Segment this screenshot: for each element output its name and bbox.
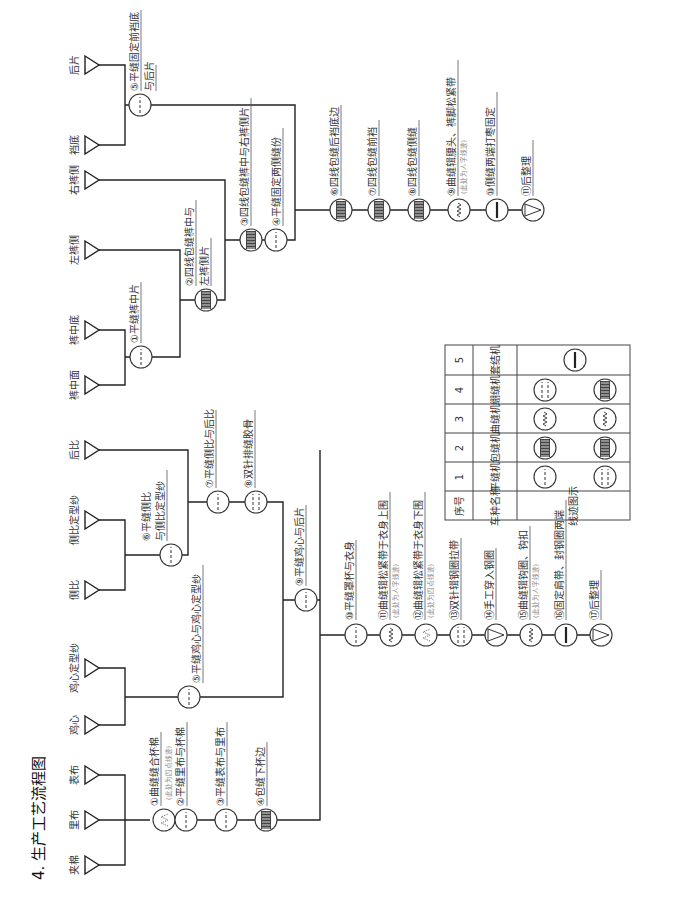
legend-row-5: 5 套结机 (454, 345, 586, 375)
hatched-circle-icon (195, 289, 217, 311)
svg-text:②四线包缝裤中与: ②四线包缝裤中与 (183, 207, 195, 286)
material-jiamian: 夹棉 (68, 855, 99, 875)
svg-text:⑦四线包缝前裆: ⑦四线包缝前裆 (366, 127, 378, 196)
double-dashed-circle-icon (534, 379, 556, 401)
bra-step-6: ⑥平缝侧比 与侧比定型纱 (140, 470, 182, 566)
pants-step-8: ⑧四线包缝侧缝 (406, 120, 430, 221)
triangle-icon (85, 136, 99, 154)
bra-step-13: ⑬双针辑钢圈拉带 (448, 538, 472, 646)
pants-step-3: ③四线包缝裤中与右裤侧片 (238, 98, 262, 251)
triangle-icon (85, 376, 99, 394)
bra-step-12: ⑫曲缝辑松紧带于衣身下围 (此处为四点线迹) (412, 492, 437, 646)
svg-text:⑭手工穿入钢圈: ⑭手工穿入钢圈 (483, 550, 495, 620)
material-houpian: 后片 (68, 55, 99, 75)
bra-materials: 夹棉 里布 表布 鸡心 鸡心定型纱 侧比 侧比定型纱 后比 (68, 440, 99, 875)
svg-text:线迹图示: 线迹图示 (567, 486, 579, 526)
svg-text:绷缝机: 绷缝机 (489, 375, 501, 405)
dashed-circle-icon (207, 491, 229, 513)
legend-row-3: 3 曲缝机 (454, 404, 616, 434)
legend-row-4: 4 绷缝机 (454, 375, 616, 405)
dashed-circle-icon (175, 809, 197, 831)
material-libu: 里布 (69, 810, 99, 830)
zigzag-circle-icon (534, 408, 556, 430)
double-dashed-circle-icon (245, 491, 267, 513)
svg-text:平缝机: 平缝机 (489, 462, 501, 492)
material-biaobu: 表布 (68, 765, 99, 785)
dashed-circle-icon (534, 466, 556, 488)
svg-text:⑩侧缝两端打枣固定: ⑩侧缝两端打枣固定 (484, 107, 496, 196)
svg-text:4: 4 (454, 387, 465, 393)
svg-text:1: 1 (454, 474, 465, 480)
svg-text:5: 5 (454, 357, 465, 363)
svg-text:右裤侧: 右裤侧 (68, 165, 80, 195)
svg-text:(此处为人字线迹): (此处为人字线迹) (459, 140, 468, 194)
svg-text:序号: 序号 (453, 496, 465, 516)
svg-text:与后片: 与后片 (143, 61, 155, 91)
pants-step-5: ⑤平缝固定前裆底 与后片 (128, 10, 156, 116)
svg-text:左裤侧: 左裤侧 (68, 235, 80, 265)
bra-step-15: ⑮曲缝辑钩圈、钩扣 (此处为人字线迹) (517, 526, 542, 646)
svg-text:2: 2 (454, 445, 465, 451)
svg-text:②平缝里布与杯棉: ②平缝里布与杯棉 (174, 727, 186, 806)
svg-text:(此处为人字线迹): (此处为人字线迹) (391, 564, 400, 618)
pants-step-9: ⑨曲缝辑腰头、裤脚松紧带 (此处为人字线迹) (445, 60, 470, 221)
bra-step-17: ⑰后整理 (588, 570, 612, 646)
triangle-circle-icon (522, 199, 544, 221)
triangle-icon (85, 766, 99, 784)
bra-step-2: ②平缝里布与杯棉 (174, 722, 197, 831)
pants-steps: ①平缝裤中片 ②四线包缝裤中与 左裤侧片 ③四线包缝裤中与右裤侧片 ④平缝固定两… (128, 10, 544, 368)
svg-text:后比: 后比 (69, 440, 80, 460)
bra-step-1: ①曲缝缝合杯棉 (此处为四点线迹) (148, 732, 175, 831)
svg-text:⑨曲缝辑腰头、裤脚松紧带: ⑨曲缝辑腰头、裤脚松紧带 (445, 77, 457, 196)
pants-step-6: ⑥四线包缝后裆底边 (328, 105, 352, 221)
svg-text:⑥平缝侧比: ⑥平缝侧比 (140, 492, 152, 541)
svg-text:③四线包缝裤中与右裤侧片: ③四线包缝裤中与右裤侧片 (238, 107, 250, 226)
hatched-circle-icon (240, 229, 262, 251)
svg-text:⑬双针辑钢圈拉带: ⑬双针辑钢圈拉带 (448, 540, 460, 620)
zigzag-circle-icon (594, 408, 616, 430)
dashed-circle-icon (265, 229, 287, 251)
svg-text:裆底: 裆底 (68, 135, 80, 155)
triangle-icon (85, 511, 99, 529)
bra-step-11: ⑪曲缝辑松紧带于衣身上围 (此处为人字线迹) (377, 492, 402, 646)
svg-text:鸡心: 鸡心 (68, 715, 80, 735)
material-dangdi: 裆底 (68, 135, 99, 155)
svg-text:③平缝表布与里布: ③平缝表布与里布 (214, 727, 226, 806)
bra-step-9: ⑨平缝鸡心与后片 (293, 505, 317, 611)
dotted-zigzag-circle-icon (153, 809, 175, 831)
hatched-circle-icon (255, 809, 277, 831)
triangle-circle-icon (590, 624, 612, 646)
svg-text:⑯固定肩带、封钢圈两端: ⑯固定肩带、封钢圈两端 (553, 510, 565, 620)
dashed-circle-icon (345, 624, 367, 646)
material-kuzhongdi: 裤中底 (68, 315, 99, 345)
triangle-circle-icon (485, 624, 507, 646)
svg-text:里布: 里布 (69, 810, 80, 830)
svg-text:①曲缝缝合杯棉: ①曲缝缝合杯棉 (148, 737, 160, 806)
svg-text:侧比: 侧比 (68, 580, 80, 600)
bra-step-4: ④包缝下杯边 (254, 742, 277, 831)
svg-text:⑪后整理: ⑪后整理 (520, 156, 532, 196)
triangle-icon (85, 581, 99, 599)
bra-step-7: ⑦平缝侧比与后比 (203, 409, 229, 513)
material-jixin-sha: 鸡心定型纱 (68, 643, 99, 693)
triangle-icon (85, 441, 99, 459)
legend-row-1: 1 平缝机 (454, 462, 616, 492)
bartack-circle-icon (555, 624, 577, 646)
triangle-icon (85, 716, 99, 734)
svg-text:⑩平缝罩杯与衣身: ⑩平缝罩杯与衣身 (343, 541, 355, 620)
bra-step-3: ③平缝表布与里布 (214, 722, 237, 831)
pants-step-2: ②四线包缝裤中与 左裤侧片 (183, 200, 217, 311)
double-dashed-circle-icon (450, 624, 472, 646)
hatched-circle-icon (330, 199, 352, 221)
svg-text:曲缝机: 曲缝机 (489, 404, 501, 434)
svg-text:(此处为人字线迹): (此处为人字线迹) (531, 564, 540, 618)
double-dashed-circle-icon (594, 466, 616, 488)
zigzag-circle-icon (520, 624, 542, 646)
hatched-circle-icon (534, 437, 556, 459)
legend-row-2: 2 包缝机 (454, 433, 616, 463)
svg-text:鸡心定型纱: 鸡心定型纱 (68, 643, 80, 693)
pants-step-4: ④平缝固定两侧缝份 (265, 128, 287, 251)
svg-text:左裤侧片: 左裤侧片 (198, 246, 210, 286)
page-title: 4. 生产工艺流程图 (30, 756, 48, 880)
dashed-circle-icon (160, 544, 182, 566)
